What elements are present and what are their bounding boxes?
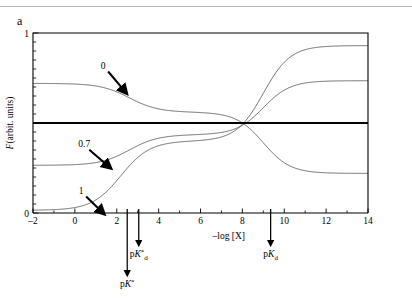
y-axis-label: F(arbit. units) — [5, 97, 16, 151]
curve-label-0p7-arrow — [89, 150, 105, 164]
curve-annotations-group: 00.71 — [78, 61, 122, 209]
pk-star-d-marker-label: pK*d — [130, 248, 149, 263]
figure-container: –20246810121401 00.71 pK*pK*dpKd –log [X… — [0, 0, 412, 307]
curve-label-1: 1 — [79, 186, 84, 196]
tick-labels-group: –20246810121401 — [24, 29, 373, 226]
x-tick-label: 0 — [73, 216, 78, 226]
curve-label-0: 0 — [101, 61, 106, 71]
axis-labels-group: –log [X]F(arbit. units) — [5, 97, 245, 241]
curve-series-0 — [33, 83, 368, 173]
y-axis-label-group: F(arbit. units) — [5, 97, 16, 151]
x-tick-label: 14 — [363, 216, 373, 226]
x-axis-label: –log [X] — [212, 231, 245, 241]
pk-d-marker-label: pKd — [263, 249, 278, 262]
curve-label-0p7: 0.7 — [78, 139, 90, 149]
curve-label-1-arrow — [86, 197, 99, 209]
y-tick-label: 1 — [24, 29, 29, 39]
y-tick-label: 0 — [24, 209, 29, 219]
pk-star-marker-label: pK* — [120, 278, 135, 289]
x-tick-label: 2 — [114, 216, 119, 226]
x-tick-label: 10 — [280, 216, 290, 226]
x-tick-label: 6 — [198, 216, 203, 226]
x-tick-label: 12 — [321, 216, 331, 226]
curve-label-0-arrow — [108, 72, 122, 88]
x-tick-label: 4 — [156, 216, 161, 226]
chart-svg: –20246810121401 00.71 pK*pK*dpKd –log [X… — [0, 0, 412, 307]
x-tick-label: 8 — [240, 216, 245, 226]
